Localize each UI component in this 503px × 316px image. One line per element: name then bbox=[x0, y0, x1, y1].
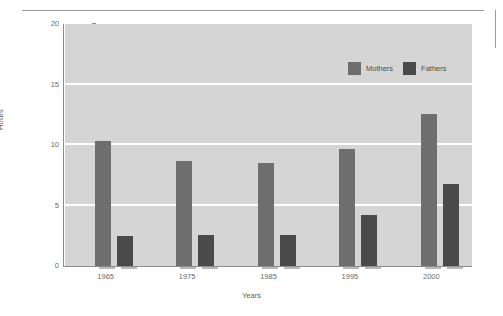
y-axis-title: Hours bbox=[0, 109, 5, 130]
legend-swatch-icon bbox=[348, 62, 361, 75]
y-axis-tick-label: 5 bbox=[37, 202, 59, 210]
bar-body bbox=[176, 161, 192, 266]
bar-group bbox=[146, 24, 227, 266]
legend-swatch-body bbox=[403, 62, 416, 75]
bar-mothers-1975 bbox=[176, 161, 192, 266]
bar-fathers-1965 bbox=[117, 236, 133, 266]
x-axis-tick-label: 1995 bbox=[309, 272, 390, 284]
bar-body bbox=[258, 163, 274, 266]
bar-group bbox=[391, 24, 472, 266]
bar-body bbox=[198, 235, 214, 266]
chart-legend: MothersFathers bbox=[348, 62, 447, 75]
bar-body bbox=[361, 215, 377, 266]
x-axis-line bbox=[63, 266, 472, 267]
bar-fathers-1975 bbox=[198, 235, 214, 266]
y-axis-tick-label: 10 bbox=[37, 141, 59, 149]
x-axis-title: Years bbox=[0, 291, 503, 300]
bar-body bbox=[421, 114, 437, 266]
bar-chart-figure: 05101520 Hours MothersFathers 1965197519… bbox=[0, 0, 503, 316]
y-axis-ticks: 05101520 bbox=[33, 24, 59, 266]
legend-label: Mothers bbox=[366, 64, 393, 73]
x-axis-tick-labels: 19651975198519952000 bbox=[65, 272, 472, 284]
bar-mothers-2000 bbox=[421, 114, 437, 266]
legend-swatch-icon bbox=[403, 62, 416, 75]
y-axis-tick-label: 20 bbox=[37, 20, 59, 28]
bar-body bbox=[443, 184, 459, 266]
bar-fathers-1985 bbox=[280, 235, 296, 266]
y-axis-line bbox=[63, 24, 64, 267]
bar-fathers-2000 bbox=[443, 184, 459, 266]
bar-group bbox=[65, 24, 146, 266]
bar-group bbox=[309, 24, 390, 266]
x-axis-tick-label: 2000 bbox=[391, 272, 472, 284]
bar-body bbox=[339, 149, 355, 266]
bar-fathers-1995 bbox=[361, 215, 377, 266]
x-axis-tick-label: 1975 bbox=[146, 272, 227, 284]
legend-item-mothers: Mothers bbox=[348, 62, 393, 75]
bar-group bbox=[228, 24, 309, 266]
x-axis-tick-label: 1965 bbox=[65, 272, 146, 284]
legend-swatch-body bbox=[348, 62, 361, 75]
y-axis-tick-label: 0 bbox=[37, 262, 59, 270]
plot-area: MothersFathers bbox=[65, 24, 472, 266]
bar-mothers-1965 bbox=[95, 141, 111, 266]
x-axis-tick-label: 1985 bbox=[228, 272, 309, 284]
y-axis-tick-label: 15 bbox=[37, 81, 59, 89]
legend-label: Fathers bbox=[421, 64, 446, 73]
bar-mothers-1995 bbox=[339, 149, 355, 266]
legend-item-fathers: Fathers bbox=[403, 62, 446, 75]
bar-groups bbox=[65, 24, 472, 266]
bar-mothers-1985 bbox=[258, 163, 274, 266]
bar-body bbox=[117, 236, 133, 266]
bar-body bbox=[280, 235, 296, 266]
bar-body bbox=[95, 141, 111, 266]
